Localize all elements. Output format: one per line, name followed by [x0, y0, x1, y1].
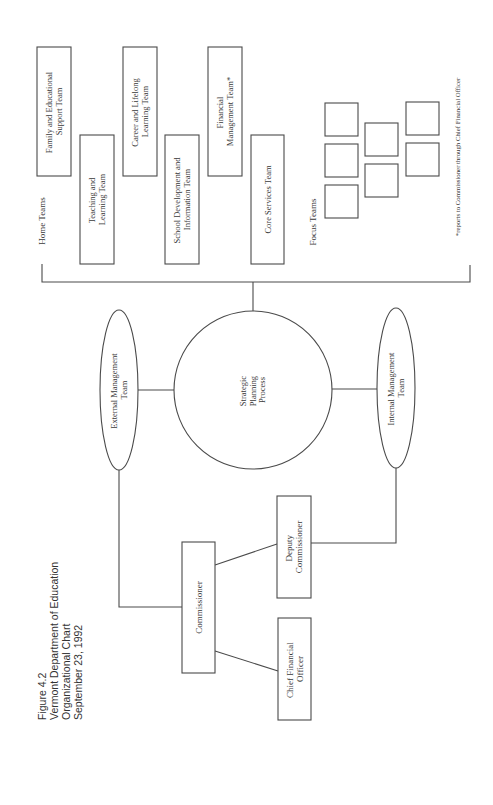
- org-chart: Strategic Planning Process External Mana…: [0, 0, 493, 805]
- chart-date: September 23, 1992: [72, 625, 84, 720]
- focus-team-box: [325, 103, 358, 136]
- focus-team-box: [325, 144, 358, 177]
- home-team-teaching-learning: Teaching and Learning Team: [80, 135, 114, 264]
- home-teams-label: Home Teams: [37, 197, 47, 245]
- home-team-school-development-information: School Development and Information Team: [165, 135, 199, 264]
- commissioner-node: Commissioner: [182, 542, 215, 673]
- teams-bracket: [42, 264, 470, 282]
- focus-team-box: [365, 164, 398, 197]
- strategic-planning-label: Strategic Planning Process: [238, 374, 267, 406]
- footnote: *reports to Commissioner through Chief F…: [454, 77, 461, 236]
- focus-teams-label: Focus Teams: [308, 198, 318, 245]
- deputy-commissioner-node: Deputy Commissioner: [277, 496, 311, 598]
- commissioner-to-cfo-line: [215, 651, 278, 671]
- chart-title: Organizational Chart: [60, 624, 72, 720]
- home-team-financial-management: Financial Management Team*: [208, 47, 242, 176]
- focus-team-box: [325, 185, 358, 218]
- figure-number: Figure 4.2: [36, 673, 48, 720]
- home-team-label: Core Services Team: [263, 165, 273, 234]
- focus-team-box: [365, 123, 398, 156]
- figure-caption: Figure 4.2 Vermont Department of Educati…: [36, 559, 84, 720]
- strategic-planning-node: Strategic Planning Process: [174, 311, 332, 469]
- deputy-to-internal-line: [311, 467, 396, 543]
- home-team-label: Teaching and Learning Team: [87, 173, 107, 225]
- home-team-core-services: Core Services Team: [251, 135, 284, 264]
- commissioner-label: Commissioner: [194, 581, 204, 634]
- internal-management-node: Internal Management Team: [377, 308, 415, 468]
- external-management-node: External Management Team: [100, 310, 138, 470]
- organization-name: Vermont Department of Education: [48, 562, 60, 720]
- focus-team-box: [406, 143, 439, 176]
- home-team-career-lifelong-learning: Career and Lifelong Learning Team: [123, 47, 157, 176]
- chief-financial-officer-node: Chief Financial Officer: [278, 618, 311, 720]
- commissioner-to-deputy-line: [215, 544, 277, 565]
- home-teams-group: Home Teams Family and Educational Suppor…: [37, 47, 284, 264]
- external-to-commissioner-line: [119, 470, 182, 607]
- home-team-family-educational-support: Family and Educational Support Team: [37, 47, 71, 176]
- focus-team-box: [406, 102, 439, 135]
- focus-teams-group: Focus Teams: [308, 102, 439, 245]
- home-team-label: Career and Lifelong Learning Team: [130, 76, 150, 147]
